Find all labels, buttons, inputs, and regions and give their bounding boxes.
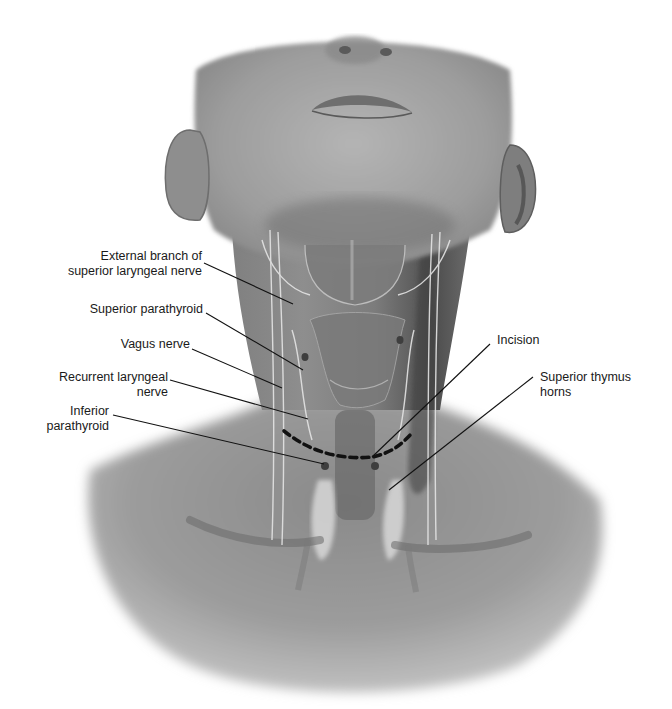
label-incision: Incision: [497, 333, 539, 348]
nostril-right: [380, 48, 392, 56]
label-superior-parathyroid: Superior parathyroid: [90, 302, 203, 317]
nose: [325, 36, 385, 64]
label-external-branch-sln: External branch of superior laryngeal ne…: [68, 249, 202, 279]
label-vagus-nerve: Vagus nerve: [121, 337, 190, 352]
label-inferior-parathyroid: Inferior parathyroid: [46, 404, 109, 434]
superior-parathyroid-left: [302, 353, 309, 361]
anatomy-illustration: [0, 0, 672, 709]
superior-parathyroid-right: [397, 336, 404, 344]
label-superior-thymus-horns: Superior thymus horns: [540, 370, 631, 400]
inferior-parathyroid-right: [371, 462, 379, 470]
left-ear: [165, 130, 209, 220]
face: [194, 36, 512, 268]
neck-anatomy-figure: External branch of superior laryngeal ne…: [0, 0, 672, 709]
nostril-left: [339, 46, 351, 54]
label-recurrent-laryngeal-nerve: Recurrent laryngeal nerve: [59, 370, 168, 400]
